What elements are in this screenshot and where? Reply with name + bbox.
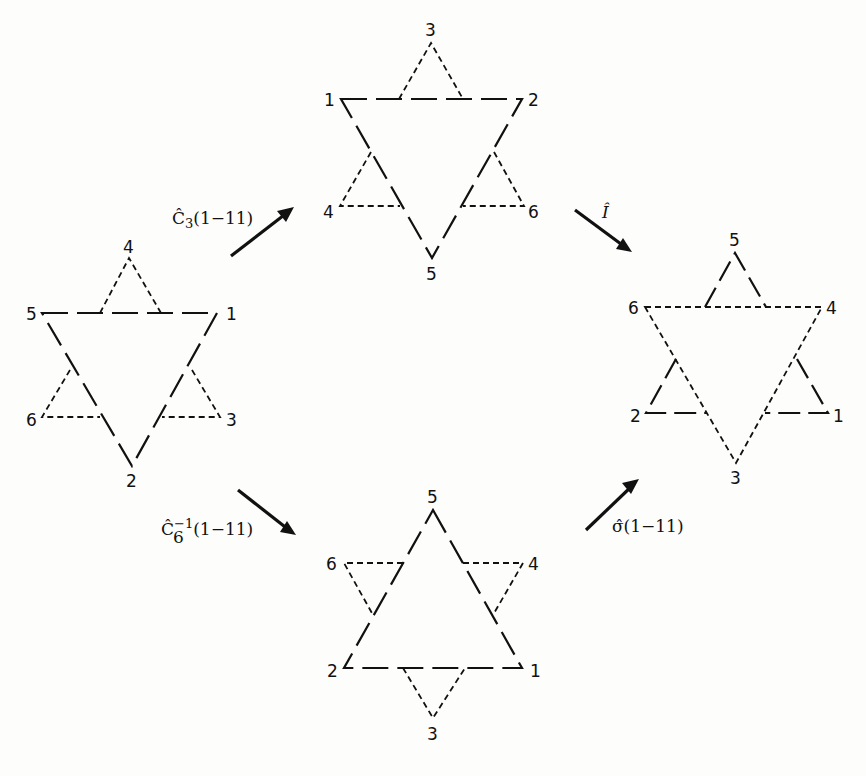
vertex-label-3: 3 <box>425 20 436 40</box>
vertex-label-5: 5 <box>729 230 740 250</box>
vertex-label-1: 1 <box>226 304 237 324</box>
small-triangle-6-dashed <box>463 152 524 206</box>
vertex-label-6: 6 <box>628 298 639 318</box>
vertex-label-1: 1 <box>530 661 541 681</box>
small-triangle-6-dashed <box>344 563 403 615</box>
arrow-c3: Ĉ3(1−11) <box>172 207 294 256</box>
star-result: 5 6 4 2 1 3 <box>628 230 844 488</box>
star-after-c3: 3 1 2 4 6 5 <box>323 20 539 284</box>
small-triangle-5-solid <box>705 253 766 307</box>
vertex-label-5: 5 <box>26 304 37 324</box>
diagram-canvas: 4 5 1 6 3 2 3 1 2 4 6 5 5 6 4 2 1 3 5 <box>0 0 866 776</box>
op-label-c3: Ĉ3(1−11) <box>172 208 253 231</box>
small-triangle-2-solid <box>646 359 707 413</box>
large-triangle-solid <box>42 313 217 466</box>
large-triangle-solid <box>341 99 522 258</box>
vertex-label-4: 4 <box>323 202 334 222</box>
op-label-inversion: Î <box>601 202 610 222</box>
vertex-label-2: 2 <box>528 90 539 110</box>
vertex-label-4: 4 <box>826 298 837 318</box>
small-triangle-4-dashed <box>100 258 161 313</box>
small-triangle-3-dashed <box>399 43 463 99</box>
large-triangle-solid <box>344 510 522 668</box>
vertex-label-2: 2 <box>126 471 137 491</box>
vertex-label-1: 1 <box>833 406 844 426</box>
vertex-label-6: 6 <box>528 202 539 222</box>
vertex-label-1: 1 <box>324 90 335 110</box>
arrowhead-icon <box>616 238 632 252</box>
vertex-label-6: 6 <box>326 554 337 574</box>
large-triangle-dashed <box>645 307 822 463</box>
vertex-label-5: 5 <box>427 487 438 507</box>
star-after-c6inv: 5 6 4 2 1 3 <box>326 487 541 744</box>
op-label-sigma: σ̂(1−11) <box>612 516 684 536</box>
small-triangle-6-dashed <box>42 370 100 417</box>
small-triangle-4-dashed <box>463 563 523 615</box>
star-start: 4 5 1 6 3 2 <box>26 237 237 491</box>
vertex-label-2: 2 <box>630 406 641 426</box>
small-triangle-3-dashed <box>403 668 465 718</box>
vertex-label-2: 2 <box>327 661 338 681</box>
diagram-svg: 4 5 1 6 3 2 3 1 2 4 6 5 5 6 4 2 1 3 5 <box>0 0 866 776</box>
vertex-label-4: 4 <box>528 554 539 574</box>
vertex-label-3: 3 <box>427 724 438 744</box>
vertex-label-3: 3 <box>730 468 741 488</box>
arrow-inversion: Î <box>575 202 632 252</box>
vertex-label-4: 4 <box>123 237 134 257</box>
op-label-c6inv-subscript: 6 <box>173 527 184 547</box>
vertex-label-3: 3 <box>226 410 237 430</box>
small-triangle-3-dashed <box>162 370 220 417</box>
arrow-sigma: σ̂(1−11) <box>586 479 684 536</box>
arrow-c6inv: Ĉ−1(1−11) 6 <box>161 490 296 547</box>
vertex-label-6: 6 <box>26 410 37 430</box>
vertex-label-5: 5 <box>426 264 437 284</box>
small-triangle-1-solid <box>765 359 828 413</box>
small-triangle-4-dashed <box>340 152 400 206</box>
